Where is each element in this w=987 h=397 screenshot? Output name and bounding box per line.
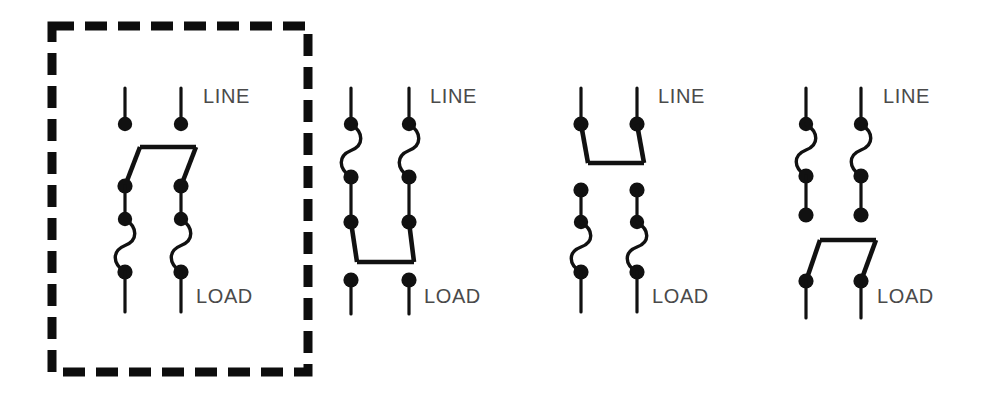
schematic-canvas: LINELOADLINELOADLINELOADLINELOAD: [0, 0, 987, 397]
variant-2-fuses-above-switch[interactable]: LINELOAD: [341, 85, 481, 314]
variant-1-switch-above-fuses[interactable]: LINELOAD: [115, 85, 253, 312]
fuse-symbol-1: [115, 219, 135, 272]
line-terminal-dot-2: [174, 117, 188, 131]
fuse-symbol-2: [171, 219, 191, 272]
variant-3-switch-top-fuses-bottom[interactable]: LINELOAD: [571, 85, 709, 312]
switch-blade-1: [351, 222, 357, 262]
switch-assembly[interactable]: [798, 240, 876, 289]
variant-2-line-label: LINE: [430, 85, 477, 107]
fuse-symbol-2: [399, 124, 419, 177]
variant-3-line-label: LINE: [658, 85, 705, 107]
variant-2-load-label: LOAD: [424, 285, 481, 307]
switch-assembly[interactable]: [117, 147, 196, 194]
fuse-symbol-1: [796, 124, 816, 176]
fuse-out-dot-2: [853, 207, 868, 222]
fuse-symbol-1: [341, 124, 361, 177]
variant-1-line-label: LINE: [203, 85, 250, 107]
variant-4-line-label: LINE: [883, 85, 930, 107]
fuse-symbol-2: [851, 124, 871, 176]
variant-3-load-label: LOAD: [652, 285, 709, 307]
variant-1-load-label: LOAD: [196, 285, 253, 307]
variant-4-fuses-top-switch-bottom[interactable]: LINELOAD: [796, 85, 934, 318]
line-terminal-dot-1: [118, 117, 132, 131]
variant-4-load-label: LOAD: [877, 285, 934, 307]
schematic-svg: LINELOADLINELOADLINELOADLINELOAD: [0, 0, 987, 397]
fuse-out-dot-1: [798, 207, 813, 222]
